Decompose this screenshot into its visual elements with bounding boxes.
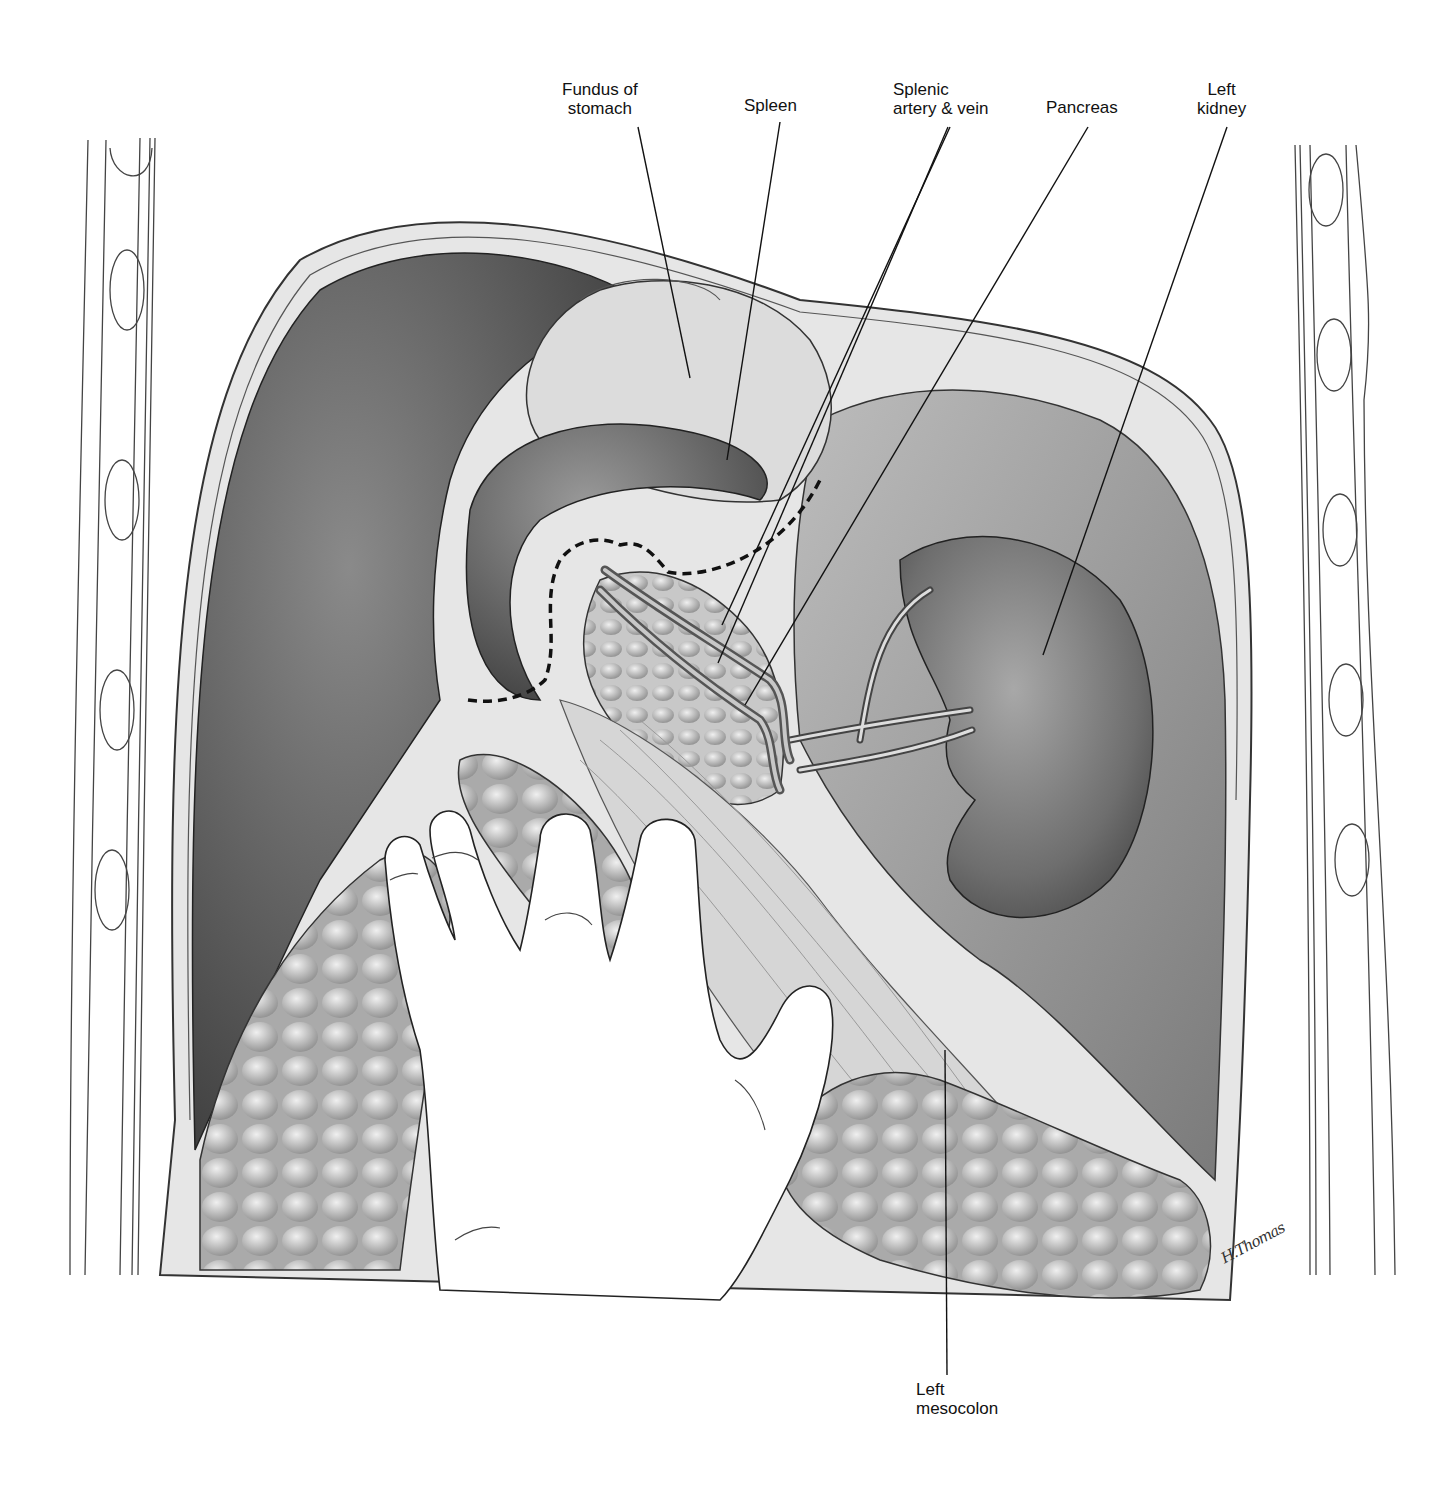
label-fundus-of-stomach: Fundus of stomach: [562, 80, 638, 118]
label-splenic-artery-vein: Splenic artery & vein: [893, 80, 988, 118]
label-left-kidney: Left kidney: [1197, 80, 1246, 118]
body-wall-left: [70, 138, 155, 1275]
body-wall-right: [1295, 145, 1395, 1275]
anatomy-illustration: [0, 0, 1446, 1502]
label-pancreas: Pancreas: [1046, 98, 1118, 117]
label-spleen: Spleen: [744, 96, 797, 115]
label-left-mesocolon: Left mesocolon: [916, 1380, 998, 1418]
